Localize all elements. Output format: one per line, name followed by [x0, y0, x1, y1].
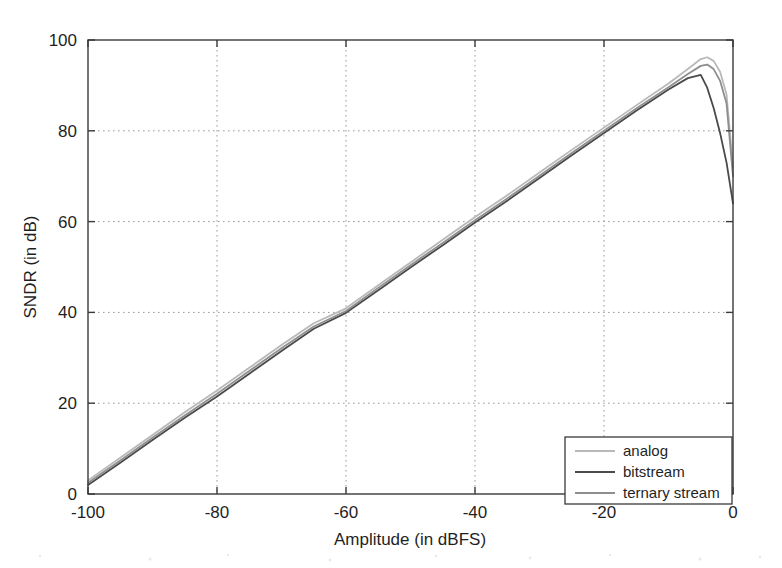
x-tick-labels: -100-80-60-40-200 [71, 503, 738, 522]
legend-label-analog: analog [623, 442, 668, 459]
y-axis-title: SNDR (in dB) [21, 216, 40, 319]
x-tick-label: -20 [592, 503, 617, 522]
x-tick-label: -100 [71, 503, 105, 522]
legend: analogbitstreamternary stream [565, 437, 732, 504]
sndr-vs-amplitude-chart: -100-80-60-40-200 020406080100 Amplitude… [0, 0, 782, 568]
legend-label-bitstream: bitstream [623, 463, 685, 480]
x-tick-label: -60 [334, 503, 359, 522]
x-tick-label: 0 [728, 503, 737, 522]
y-tick-labels: 020406080100 [49, 31, 77, 504]
y-tick-label: 80 [58, 122, 77, 141]
x-tick-label: -40 [463, 503, 488, 522]
y-tick-label: 20 [58, 394, 77, 413]
scan-artifact-band [0, 548, 782, 568]
y-tick-label: 0 [68, 485, 77, 504]
figure-canvas: -100-80-60-40-200 020406080100 Amplitude… [0, 0, 782, 568]
legend-label-ternary-stream: ternary stream [623, 484, 720, 501]
y-tick-label: 60 [58, 213, 77, 232]
x-axis-title: Amplitude (in dBFS) [334, 530, 486, 549]
y-tick-label: 40 [58, 303, 77, 322]
y-tick-label: 100 [49, 31, 77, 50]
x-tick-label: -80 [205, 503, 230, 522]
